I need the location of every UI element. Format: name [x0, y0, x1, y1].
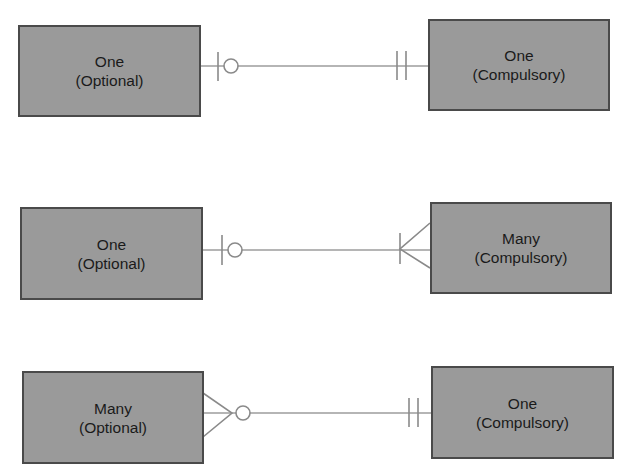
entity-label-line2: (Optional): [75, 71, 143, 90]
entity-one-compulsory: One (Compulsory): [431, 366, 614, 459]
entity-label-line2: (Optional): [79, 418, 147, 437]
relationship-1-connector: [200, 51, 428, 81]
entity-label-line1: One: [508, 394, 537, 413]
entity-label-line2: (Optional): [77, 254, 145, 273]
relationship-2-connector: [202, 223, 430, 268]
entity-one-optional: One (Optional): [20, 207, 203, 300]
optional-circle-icon: [224, 59, 238, 73]
crows-foot-icon: [203, 393, 232, 437]
entity-one-compulsory: One (Compulsory): [428, 19, 610, 111]
entity-label-line1: Many: [502, 229, 540, 248]
optional-circle-icon: [228, 243, 242, 257]
entity-label-line1: One: [95, 52, 124, 71]
entity-many-compulsory: Many (Compulsory): [430, 202, 612, 294]
entity-label-line1: One: [97, 235, 126, 254]
entity-label-line2: (Compulsory): [472, 65, 565, 84]
entity-label-line2: (Compulsory): [476, 413, 569, 432]
relationship-3-connector: [203, 393, 431, 437]
entity-one-optional: One (Optional): [18, 25, 201, 117]
entity-label-line1: Many: [94, 399, 132, 418]
entity-label-line1: One: [504, 46, 533, 65]
entity-label-line2: (Compulsory): [474, 248, 567, 267]
crows-foot-icon: [400, 223, 430, 268]
entity-many-optional: Many (Optional): [22, 371, 204, 464]
optional-circle-icon: [236, 406, 250, 420]
